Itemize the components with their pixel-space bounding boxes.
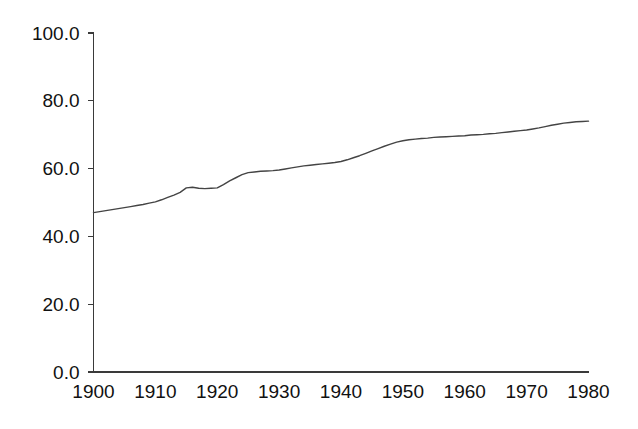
x-axis-tick-labels: 190019101920193019401950196019701980 — [72, 381, 609, 402]
line-chart-canvas: 0.020.040.060.080.0100.0 190019101920193… — [0, 0, 638, 429]
x-axis-tick-label: 1900 — [72, 381, 114, 402]
y-axis-tick-labels: 0.020.040.060.080.0100.0 — [32, 23, 80, 383]
x-axis-tick-label: 1910 — [134, 381, 176, 402]
x-axis-tick-label: 1970 — [505, 381, 547, 402]
y-axis-tick-label: 60.0 — [43, 158, 80, 179]
data-series-line — [94, 121, 589, 213]
y-axis-tick-marks — [88, 33, 94, 372]
x-axis-tick-label: 1930 — [258, 381, 300, 402]
y-axis-tick-label: 100.0 — [32, 23, 80, 44]
y-axis-tick-label: 80.0 — [43, 90, 80, 111]
x-axis-tick-label: 1980 — [567, 381, 609, 402]
x-axis-tick-label: 1960 — [444, 381, 486, 402]
y-axis-tick-label: 20.0 — [43, 294, 80, 315]
y-axis-tick-label: 0.0 — [53, 362, 79, 383]
x-axis-tick-label: 1940 — [320, 381, 362, 402]
x-axis-tick-label: 1920 — [196, 381, 238, 402]
chart-figure: 0.020.040.060.080.0100.0 190019101920193… — [0, 0, 638, 429]
x-axis-tick-label: 1950 — [382, 381, 424, 402]
y-axis-tick-label: 40.0 — [43, 226, 80, 247]
